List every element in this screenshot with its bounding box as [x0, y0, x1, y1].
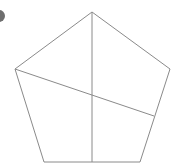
bullet-marker — [0, 10, 5, 22]
pentagon-diagram — [0, 0, 179, 168]
diagonal-divider-line — [15, 69, 154, 116]
